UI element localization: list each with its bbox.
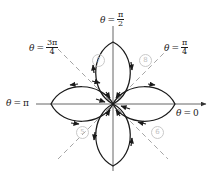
equals-upper-right: = (169, 43, 181, 53)
equals-top: = (105, 15, 117, 25)
axis-label-theta-zero: θ=0 (176, 108, 199, 118)
fraction-pi-over-4: π4 (181, 39, 188, 56)
region-label-6: 6 (151, 126, 164, 139)
region-label-8: 8 (139, 54, 152, 67)
value-left: π (23, 98, 29, 108)
equals-right: = (181, 108, 193, 118)
equals-upper-left: = (34, 43, 46, 53)
denominator-upper-left: 4 (46, 48, 58, 56)
axis-label-theta-pi: θ=π (6, 98, 29, 108)
axis-label-theta-pi-over-4: θ=π4 (164, 40, 188, 57)
region-label-7: 7 (92, 54, 105, 67)
value-right: 0 (193, 108, 199, 118)
polar-rose-figure: θ=π2 θ=3π4 θ=π4 θ=π θ=0 7 8 5 6 (0, 0, 223, 185)
fraction-3pi-over-4: 3π4 (46, 39, 58, 56)
equals-left: = (11, 98, 23, 108)
axis-label-theta-pi-over-2: θ=π2 (100, 12, 124, 29)
denominator-upper-right: 4 (181, 48, 188, 56)
fraction-pi-over-2: π2 (117, 11, 124, 28)
axis-label-theta-3pi-over-4: θ=3π4 (29, 40, 58, 57)
region-label-5: 5 (76, 126, 89, 139)
denominator-top: 2 (117, 20, 124, 28)
